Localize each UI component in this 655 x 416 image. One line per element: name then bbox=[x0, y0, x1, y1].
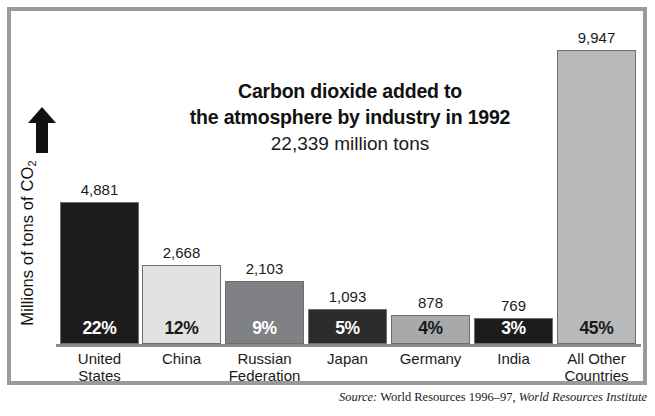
source-organization: World Resources Institute bbox=[519, 390, 647, 404]
bar-china[interactable]: 12% bbox=[142, 265, 221, 344]
bar-group-india: 3%769 bbox=[474, 22, 553, 344]
category-label-all-other-countries: All OtherCountries bbox=[547, 350, 646, 384]
bar-japan[interactable]: 5% bbox=[308, 309, 387, 344]
bar-value-russian-federation: 2,103 bbox=[246, 260, 284, 277]
bar-value-all-other-countries: 9,947 bbox=[578, 29, 616, 46]
bar-percent-all-other-countries: 45% bbox=[558, 318, 635, 339]
bar-percent-japan: 5% bbox=[309, 318, 386, 339]
category-label-line: All Other bbox=[547, 350, 646, 367]
category-label-line: Federation bbox=[215, 367, 314, 384]
x-axis-baseline bbox=[56, 344, 641, 347]
bar-russian-federation[interactable]: 9% bbox=[225, 281, 304, 344]
bar-percent-china: 12% bbox=[143, 318, 220, 339]
plot-area: 22%4,88112%2,6689%2,1035%1,0934%8783%769… bbox=[56, 22, 640, 344]
bar-value-germany: 878 bbox=[418, 294, 443, 311]
category-label-line: States bbox=[50, 367, 149, 384]
bar-united-states[interactable]: 22% bbox=[60, 202, 139, 344]
bar-group-germany: 4%878 bbox=[391, 22, 470, 344]
bar-group-japan: 5%1,093 bbox=[308, 22, 387, 344]
y-axis-label: Millions of tons of CO2 bbox=[18, 138, 44, 348]
bar-india[interactable]: 3% bbox=[474, 318, 553, 344]
bar-germany[interactable]: 4% bbox=[391, 315, 470, 344]
bar-value-india: 769 bbox=[501, 297, 526, 314]
bar-percent-india: 3% bbox=[475, 318, 552, 339]
y-axis-label-text: Millions of tons of CO bbox=[18, 167, 36, 326]
y-axis-label-subscript: 2 bbox=[26, 160, 38, 166]
bar-group-all-other-countries: 45%9,947 bbox=[557, 22, 636, 344]
bar-value-united-states: 4,881 bbox=[81, 181, 119, 198]
source-publication: World Resources 1996–97, bbox=[380, 390, 515, 404]
bar-value-china: 2,668 bbox=[163, 244, 201, 261]
bar-percent-russian-federation: 9% bbox=[226, 318, 303, 339]
bar-value-japan: 1,093 bbox=[329, 288, 367, 305]
category-label-line: Countries bbox=[547, 367, 646, 384]
source-prefix: Source: bbox=[339, 390, 377, 404]
bar-group-russian-federation: 9%2,103 bbox=[225, 22, 304, 344]
bar-all-other-countries[interactable]: 45% bbox=[557, 50, 636, 344]
bar-percent-germany: 4% bbox=[392, 318, 469, 339]
chart-figure: Millions of tons of CO2 Carbon dioxide a… bbox=[0, 0, 655, 416]
bar-group-china: 12%2,668 bbox=[142, 22, 221, 344]
bar-percent-united-states: 22% bbox=[61, 318, 138, 339]
bar-group-united-states: 22%4,881 bbox=[60, 22, 139, 344]
source-citation: Source: World Resources 1996–97, World R… bbox=[0, 390, 647, 405]
